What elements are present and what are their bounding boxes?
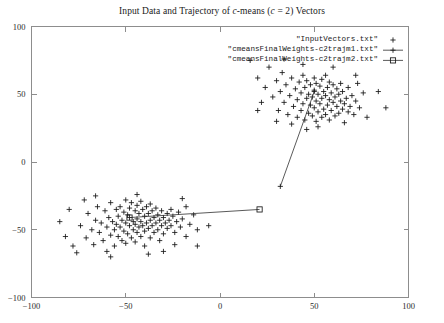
data-point-marker bbox=[74, 250, 79, 255]
data-point-marker bbox=[206, 223, 211, 228]
plot-frame bbox=[32, 27, 409, 298]
y-axis-tick-labels: −100−50050100 bbox=[8, 22, 26, 303]
data-point-marker bbox=[331, 82, 336, 87]
data-point-marker bbox=[315, 124, 320, 129]
trajectory-line bbox=[280, 92, 314, 187]
data-point-marker bbox=[91, 242, 96, 247]
data-point-marker bbox=[140, 207, 145, 212]
legend-item-label: "cmeansFinalWeights-c2trajm2.txt" bbox=[228, 55, 378, 63]
data-point-marker bbox=[161, 249, 166, 254]
data-point-marker bbox=[104, 224, 109, 229]
data-point-marker bbox=[136, 211, 141, 216]
data-point-marker bbox=[84, 235, 89, 240]
data-point-marker bbox=[150, 223, 155, 228]
data-point-marker bbox=[93, 193, 98, 198]
data-point-marker bbox=[304, 127, 309, 132]
data-point-marker bbox=[361, 90, 366, 95]
data-point-marker bbox=[297, 79, 302, 84]
data-point-marker bbox=[314, 81, 319, 86]
data-point-marker bbox=[180, 216, 185, 221]
data-point-marker bbox=[349, 93, 354, 98]
data-point-marker bbox=[314, 119, 319, 124]
data-point-marker bbox=[317, 84, 322, 89]
data-point-marker bbox=[142, 229, 147, 234]
data-point-marker bbox=[266, 65, 271, 70]
data-point-marker bbox=[78, 223, 83, 228]
data-point-marker bbox=[338, 98, 343, 103]
data-point-marker bbox=[329, 108, 334, 113]
data-point-marker bbox=[355, 81, 360, 86]
data-point-marker bbox=[119, 218, 124, 223]
data-point-marker bbox=[336, 92, 341, 97]
data-point-marker bbox=[117, 204, 122, 209]
data-point-marker bbox=[102, 208, 107, 213]
data-point-marker bbox=[332, 113, 337, 118]
data-point-marker bbox=[93, 218, 98, 223]
data-point-marker bbox=[150, 208, 155, 213]
data-point-marker bbox=[295, 97, 300, 102]
data-point-marker bbox=[340, 89, 345, 94]
data-point-marker bbox=[317, 101, 322, 106]
data-point-marker bbox=[114, 207, 119, 212]
data-point-marker bbox=[312, 105, 317, 110]
data-point-marker bbox=[133, 208, 138, 213]
data-point-marker bbox=[116, 234, 121, 239]
trajectory-cross-marker bbox=[312, 89, 317, 94]
data-point-marker bbox=[172, 230, 177, 235]
data-point-marker bbox=[101, 238, 106, 243]
data-point-marker bbox=[300, 73, 305, 78]
data-point-marker bbox=[144, 204, 149, 209]
data-point-marker bbox=[146, 252, 151, 257]
data-point-marker bbox=[310, 113, 315, 118]
y-tick-label: 0 bbox=[21, 157, 25, 167]
x-axis-tick-labels: −100−50050100 bbox=[23, 301, 415, 311]
axis-ticks bbox=[32, 27, 409, 298]
data-point-marker bbox=[121, 229, 126, 234]
data-point-marker bbox=[315, 92, 320, 97]
data-point-marker bbox=[153, 220, 158, 225]
data-point-marker bbox=[338, 81, 343, 86]
data-point-marker bbox=[289, 75, 294, 80]
data-point-marker bbox=[274, 119, 279, 124]
data-point-marker bbox=[298, 108, 303, 113]
data-point-marker bbox=[112, 243, 117, 248]
y-tick-label: −100 bbox=[8, 293, 26, 303]
data-point-marker bbox=[332, 94, 337, 99]
data-point-marker bbox=[123, 220, 128, 225]
data-point-marker bbox=[291, 104, 296, 109]
data-point-marker bbox=[289, 121, 294, 126]
data-point-marker bbox=[151, 230, 156, 235]
data-point-marker bbox=[167, 218, 172, 223]
legend-item-label: "cmeansFinalWeights-c2trajm1.txt" bbox=[228, 45, 378, 53]
data-point-marker bbox=[168, 223, 173, 228]
data-point-marker bbox=[321, 107, 326, 112]
data-point-marker bbox=[178, 224, 183, 229]
x-tick-label: −50 bbox=[119, 301, 132, 311]
data-point-marker bbox=[274, 78, 279, 83]
data-point-marker bbox=[125, 231, 130, 236]
data-point-marker bbox=[344, 96, 349, 101]
data-point-marker bbox=[67, 207, 72, 212]
data-point-marker bbox=[157, 238, 162, 243]
x-tick-label: 0 bbox=[218, 301, 222, 311]
data-point-marker bbox=[146, 226, 151, 231]
data-point-marker bbox=[340, 107, 345, 112]
data-point-marker bbox=[97, 230, 102, 235]
data-point-marker bbox=[127, 223, 132, 228]
data-point-marker bbox=[295, 115, 300, 120]
data-point-marker bbox=[304, 78, 309, 83]
data-point-marker bbox=[138, 199, 143, 204]
data-point-marker bbox=[119, 238, 124, 243]
data-point-marker bbox=[278, 89, 283, 94]
data-point-marker bbox=[106, 215, 111, 220]
data-point-marker bbox=[82, 197, 87, 202]
data-point-marker bbox=[117, 224, 122, 229]
data-point-marker bbox=[276, 108, 281, 113]
data-point-marker bbox=[131, 227, 136, 232]
data-point-marker bbox=[108, 233, 113, 238]
data-point-marker bbox=[155, 227, 160, 232]
data-point-marker bbox=[127, 205, 132, 210]
data-point-marker bbox=[331, 100, 336, 105]
data-point-marker bbox=[108, 200, 113, 205]
legend-cross-marker bbox=[390, 48, 395, 53]
